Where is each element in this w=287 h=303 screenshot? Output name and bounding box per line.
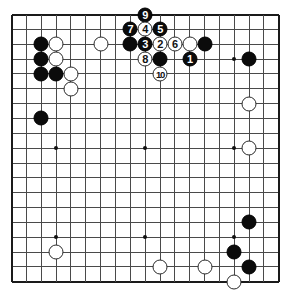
go-board-figure: 97453268101 (0, 0, 287, 303)
stone-black[interactable] (34, 66, 49, 81)
grid-line-vertical (130, 15, 131, 282)
stone-white[interactable] (153, 259, 168, 274)
stone-black[interactable] (123, 37, 138, 52)
stone-black[interactable] (34, 111, 49, 126)
move-stone-2-white[interactable]: 2 (153, 37, 168, 52)
move-stone-5-black[interactable]: 5 (153, 22, 168, 37)
stone-black[interactable] (242, 259, 257, 274)
move-stone-4-white[interactable]: 4 (138, 22, 153, 37)
grid-line-vertical (85, 15, 86, 282)
stone-black[interactable] (227, 245, 242, 260)
stone-black[interactable] (242, 52, 257, 67)
move-stone-10-white[interactable]: 10 (153, 66, 168, 81)
move-stone-1-black[interactable]: 1 (182, 52, 197, 67)
hoshi-star-point (54, 146, 58, 150)
grid-line-vertical (263, 15, 264, 282)
move-stone-8-white[interactable]: 8 (138, 52, 153, 67)
move-number-label: 1 (187, 54, 193, 65)
move-stone-7-black[interactable]: 7 (123, 22, 138, 37)
hoshi-star-point (54, 235, 58, 239)
grid-line-vertical (219, 15, 220, 282)
stone-white[interactable] (227, 274, 242, 289)
stone-black[interactable] (49, 66, 64, 81)
move-stone-9-black[interactable]: 9 (138, 7, 153, 22)
stone-black[interactable] (153, 52, 168, 67)
move-stone-6-white[interactable]: 6 (167, 37, 182, 52)
stone-white[interactable] (63, 66, 78, 81)
move-number-label: 9 (142, 9, 148, 20)
move-number-label: 4 (142, 24, 148, 35)
grid-line-vertical (278, 15, 280, 282)
move-number-label: 5 (157, 24, 163, 35)
hoshi-star-point (143, 235, 147, 239)
move-number-label: 8 (142, 54, 148, 65)
hoshi-star-point (232, 57, 236, 61)
grid-line-vertical (70, 15, 71, 282)
grid-line-vertical (115, 15, 116, 282)
stone-white[interactable] (242, 141, 257, 156)
move-number-label: 2 (157, 39, 163, 50)
stone-white[interactable] (93, 37, 108, 52)
hoshi-star-point (232, 235, 236, 239)
stone-white[interactable] (197, 259, 212, 274)
stone-white[interactable] (242, 96, 257, 111)
goban-grid[interactable]: 97453268101 (0, 0, 287, 303)
grid-line-vertical (11, 15, 13, 282)
grid-line-vertical (100, 15, 101, 282)
stone-white[interactable] (49, 52, 64, 67)
stone-white[interactable] (49, 37, 64, 52)
move-number-label: 3 (142, 39, 148, 50)
hoshi-star-point (232, 146, 236, 150)
grid-line-vertical (204, 15, 205, 282)
move-stone-3-black[interactable]: 3 (138, 37, 153, 52)
stone-black[interactable] (242, 215, 257, 230)
move-number-label: 7 (127, 24, 133, 35)
stone-black[interactable] (197, 37, 212, 52)
move-number-label: 6 (172, 39, 178, 50)
stone-white[interactable] (182, 37, 197, 52)
grid-line-vertical (174, 15, 175, 282)
stone-black[interactable] (34, 52, 49, 67)
move-number-label: 10 (156, 69, 164, 79)
stone-black[interactable] (34, 37, 49, 52)
hoshi-star-point (143, 146, 147, 150)
grid-line-vertical (26, 15, 27, 282)
stone-white[interactable] (49, 245, 64, 260)
stone-white[interactable] (63, 81, 78, 96)
